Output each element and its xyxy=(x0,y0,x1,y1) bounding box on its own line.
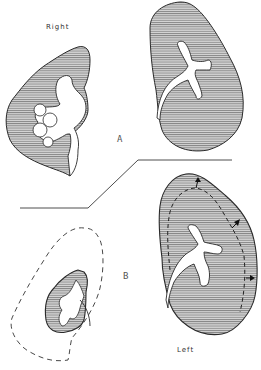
right-kidney-panel-b xyxy=(11,228,103,361)
right-kidney-panel-a xyxy=(6,47,90,176)
panel-a-label: A xyxy=(117,134,122,144)
left-kidney-panel-a xyxy=(150,2,243,151)
right-label: Right xyxy=(46,23,69,31)
left-kidney-panel-b xyxy=(159,174,257,335)
kidney-comparison-diagram xyxy=(0,0,261,370)
panel-b-label: B xyxy=(123,271,128,281)
left-label: Left xyxy=(177,346,194,354)
